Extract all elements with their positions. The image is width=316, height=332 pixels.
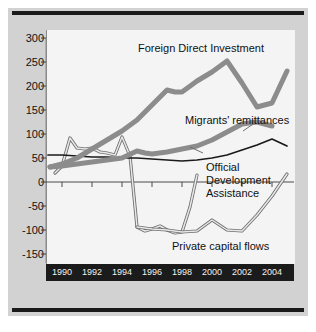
x-tick-label: 2004 [257, 267, 287, 278]
x-tick-label: 1994 [107, 267, 137, 278]
annotation-oda-line1: Official [206, 161, 239, 174]
x-tick-label: 1998 [167, 267, 197, 278]
x-axis-band: 1990 1992 1994 1996 1998 2000 2002 2004 [46, 264, 294, 281]
annotation-remittances: Migrants' remittances [185, 114, 289, 127]
x-tick-label: 2002 [227, 267, 257, 278]
x-tick-label: 1996 [137, 267, 167, 278]
x-tick-label: 1992 [77, 267, 107, 278]
x-tick-label: 2000 [197, 267, 227, 278]
x-tick-label: 1990 [47, 267, 77, 278]
annotation-oda-line2: Development [206, 174, 271, 187]
axis-spine-group [41, 38, 46, 263]
annotation-fdi: Foreign Direct Investment [138, 42, 264, 55]
annotation-oda-line3: Assistance [206, 187, 259, 200]
annotation-private-capital-flows: Private capital flows [172, 240, 269, 253]
chart-figure: 300 250 200 150 100 50 0 -50 -100 -150 [0, 0, 316, 332]
